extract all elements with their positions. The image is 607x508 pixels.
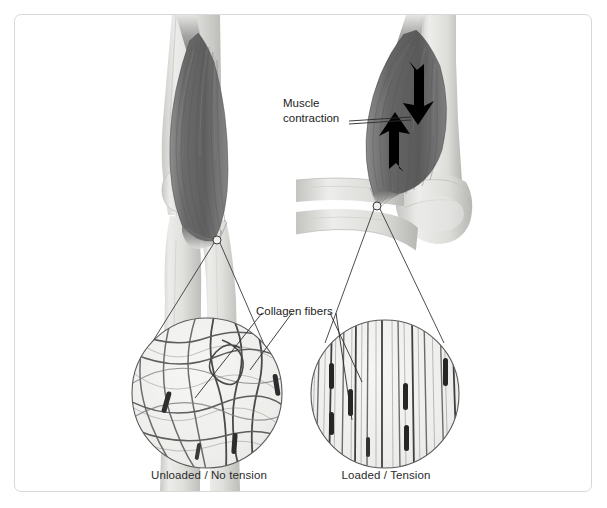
right-arm-anatomy (296, 15, 472, 343)
inset-unloaded (128, 316, 286, 470)
anatomy-illustration (0, 0, 607, 508)
label-muscle-contraction: Muscle contraction (283, 96, 339, 125)
tendon-callout-left (213, 236, 221, 244)
figure-root: Muscle contraction Collagen fibers Unloa… (0, 0, 607, 508)
label-collagen-fibers: Collagen fibers (256, 305, 333, 317)
caption-loaded: Loaded / Tension (342, 469, 431, 481)
inset-loaded (311, 318, 459, 470)
label-muscle-contraction-line1: Muscle (283, 96, 339, 111)
tendon-callout-right (373, 202, 381, 210)
caption-unloaded: Unloaded / No tension (151, 469, 267, 481)
label-muscle-contraction-line2: contraction (283, 111, 339, 126)
